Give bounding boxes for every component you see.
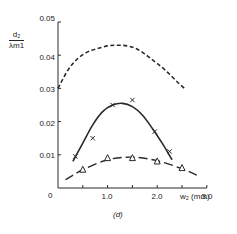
y-axis-label: d₂ λm1 — [9, 30, 24, 51]
y-tick-label: 0.01 — [39, 151, 55, 160]
y-axis-label-denominator: λm1 — [9, 41, 24, 51]
x-marker — [130, 98, 134, 102]
solid-fit-curve — [73, 103, 172, 161]
dashed-curve — [58, 45, 184, 88]
y-tick-label: 0.04 — [39, 53, 55, 62]
markers — [73, 98, 185, 172]
y-tick-label: 0.05 — [39, 14, 55, 23]
panel-label: (d) — [113, 210, 123, 219]
x-tick-label: 1.0 — [101, 192, 112, 201]
x-axis-label: w₂ (mm) — [180, 192, 210, 201]
y-axis-label-numerator: d₂ — [9, 30, 24, 41]
origin-label: 0 — [48, 191, 52, 200]
y-tick-label: 0.03 — [39, 85, 55, 94]
x-marker — [91, 136, 95, 140]
curves — [58, 45, 199, 179]
y-tick-label: 0.02 — [39, 119, 55, 128]
triangle-marker — [80, 166, 86, 172]
triangle-marker — [105, 155, 111, 161]
x-tick-label: 2.0 — [151, 192, 162, 201]
